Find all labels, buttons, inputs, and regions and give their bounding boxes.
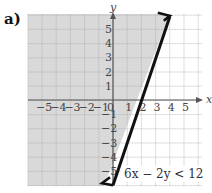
- y-tick-label: 5: [105, 23, 112, 36]
- y-tick-label: 2: [105, 66, 112, 79]
- x-tick-label: 4: [168, 101, 175, 114]
- graph: xy−5−4−3−2−101234554321−1−2−3−4−56x − 2y…: [0, 0, 212, 193]
- y-tick-label: 4: [105, 37, 112, 50]
- y-tick-label: −1: [101, 108, 117, 121]
- inequality-annotation: 6x − 2y < 12: [124, 167, 203, 181]
- y-axis-label: y: [109, 1, 117, 14]
- y-tick-label: 1: [105, 80, 112, 93]
- y-tick-label: −4: [101, 151, 117, 164]
- y-tick-label: −2: [101, 122, 117, 135]
- x-tick-label: 3: [154, 101, 161, 114]
- x-tick-label: 1: [125, 101, 132, 114]
- y-tick-label: 3: [105, 51, 112, 64]
- y-tick-label: −3: [101, 137, 117, 150]
- x-axis-label: x: [206, 93, 212, 106]
- x-tick-label: 5: [182, 101, 189, 114]
